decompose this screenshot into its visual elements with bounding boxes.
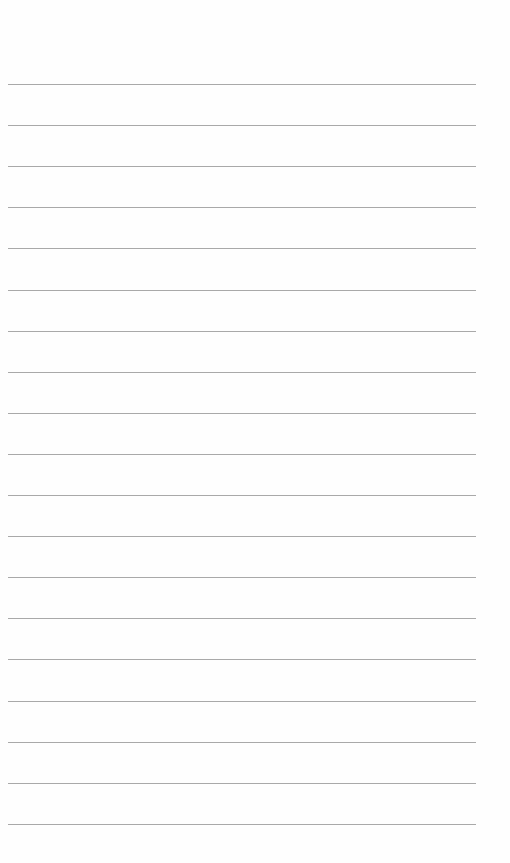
ruled-line	[8, 248, 476, 249]
ruled-line	[8, 701, 476, 702]
ruled-line	[8, 659, 476, 660]
ruled-line	[8, 618, 476, 619]
ruled-line	[8, 742, 476, 743]
lined-paper-page	[0, 0, 510, 863]
ruled-line	[8, 84, 476, 85]
ruled-line	[8, 536, 476, 537]
ruled-line	[8, 290, 476, 291]
ruled-line	[8, 331, 476, 332]
ruled-line	[8, 454, 476, 455]
ruled-line	[8, 125, 476, 126]
ruled-line	[8, 372, 476, 373]
ruled-line	[8, 495, 476, 496]
ruled-line	[8, 207, 476, 208]
ruled-line	[8, 166, 476, 167]
ruled-line	[8, 824, 476, 825]
ruled-line	[8, 413, 476, 414]
ruled-line	[8, 577, 476, 578]
ruled-line	[8, 783, 476, 784]
